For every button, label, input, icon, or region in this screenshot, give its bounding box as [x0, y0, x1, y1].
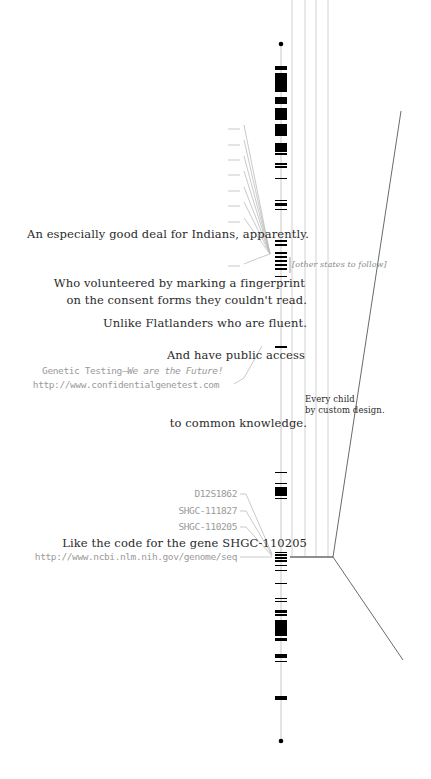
chromosome-band [275, 583, 287, 584]
chromosome-band [275, 696, 287, 700]
caption-common-knowledge: to common knowledge. [170, 416, 307, 430]
chromosome-band [275, 498, 287, 499]
chromosome-band [275, 200, 287, 201]
zoom-diagonal-top [333, 111, 401, 557]
chromosome-top-dot [279, 42, 284, 47]
chromosome-band [275, 209, 287, 210]
caption-volunteered-line-1: Who volunteered by marking a fingerprint [54, 276, 305, 290]
chromosome-band [275, 153, 287, 155]
chromosome-band [275, 661, 287, 662]
caption-gene-code: Like the code for the gene SHGC-110205 [62, 536, 307, 550]
chromosome-band [275, 620, 287, 636]
chromosome-band [275, 244, 287, 246]
label-leaders [228, 125, 270, 266]
genetic-testing-ad: Genetic Testing—We are the Future! [42, 365, 223, 376]
chromosome-band [275, 554, 287, 556]
chromosome-bottom-dot [279, 739, 284, 744]
chromosome-band [275, 124, 287, 136]
chromosome-band [275, 552, 287, 553]
marker-shgc-110205: SHGC-110205 [178, 521, 237, 532]
marker-d12s1862: D12S1862 [194, 488, 237, 499]
other-states-note: [other states to follow] [292, 259, 387, 271]
chromosome-band [275, 472, 287, 473]
marker-shgc-111827: SHGC-111827 [178, 505, 237, 516]
chromosome-band [275, 483, 287, 484]
chromosome-band [275, 178, 287, 179]
ncbi-url[interactable]: http://www.ncbi.nlm.nih.gov/genome/seq [35, 551, 237, 562]
chromosome-band [275, 108, 287, 120]
chromosome-band [275, 601, 287, 602]
caption-volunteered-line-2: on the consent forms they couldn't read. [66, 293, 307, 307]
chromosome-band [275, 268, 287, 270]
genetest-url[interactable]: http://www.confidentialgenetest.com [33, 379, 219, 390]
caption-indians: An especially good deal for Indians, app… [27, 227, 309, 241]
chromosome-band [275, 654, 287, 658]
caption-every-child-line-2: by custom design. [305, 404, 385, 416]
zoom-diagonal-bottom [333, 557, 403, 660]
chromosome-band [275, 557, 287, 559]
chromosome-band [275, 252, 287, 254]
chromosome-band [275, 638, 287, 641]
chromosome-band [275, 66, 287, 70]
chromosome-band [275, 614, 287, 616]
chromosome-band [275, 565, 287, 566]
chromosome-band [275, 260, 287, 262]
genetic-testing-slogan: We are the Future! [127, 365, 223, 376]
genome-poster-canvas: An especially good deal for Indians, app… [0, 0, 431, 779]
chromosome-band [275, 487, 287, 496]
chromosome-band [275, 570, 287, 571]
chromosome-band [275, 256, 287, 258]
caption-public-access: And have public access [167, 348, 305, 362]
chromosome-band [275, 203, 287, 206]
chromosome-band [275, 166, 287, 168]
chromosome-band [275, 560, 287, 562]
chromosome-band [275, 163, 287, 165]
caption-flatlanders: Unlike Flatlanders who are fluent. [103, 316, 307, 330]
chromosome-band [275, 264, 287, 266]
chromosome-band [275, 143, 287, 152]
genetic-testing-prefix: Genetic Testing— [42, 365, 127, 376]
chromosome-band [275, 610, 287, 613]
chromosome-band [275, 598, 287, 599]
chromosome-band [275, 73, 287, 92]
chromosome-band [275, 97, 287, 104]
